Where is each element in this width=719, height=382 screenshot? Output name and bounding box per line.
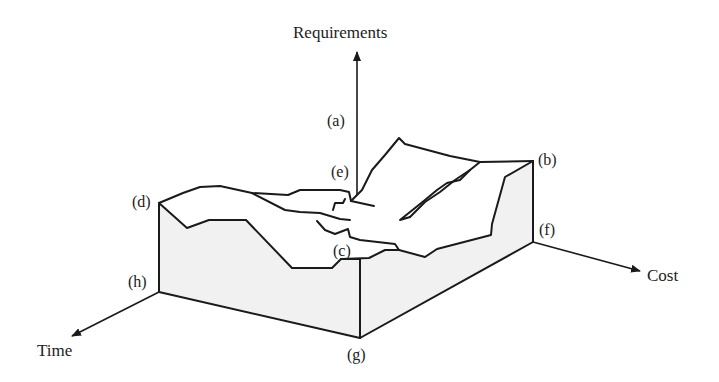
point-label-g: (g)	[347, 346, 366, 364]
ridge-line-b2	[410, 170, 470, 217]
time-axis-label: Time	[37, 341, 72, 360]
cost-axis	[533, 242, 640, 271]
point-label-e: (e)	[331, 163, 349, 181]
point-label-c: (c)	[333, 242, 351, 260]
valley-line-4	[317, 221, 399, 250]
point-label-f: (f)	[539, 221, 555, 239]
valley-line-2	[351, 201, 374, 206]
point-label-d: (d)	[132, 193, 151, 211]
point-label-a: (a)	[327, 112, 345, 130]
point-label-h: (h)	[128, 273, 147, 291]
landscape-diagram: Requirements Time Cost (a) (b) (c) (d) (…	[0, 0, 719, 382]
valley-line-3	[333, 199, 345, 210]
point-label-b: (b)	[538, 151, 557, 169]
requirements-axis-label: Requirements	[293, 23, 387, 42]
left-face	[159, 203, 360, 338]
cost-axis-label: Cost	[647, 266, 678, 285]
valley-line-1	[252, 193, 350, 220]
time-axis	[72, 292, 159, 336]
